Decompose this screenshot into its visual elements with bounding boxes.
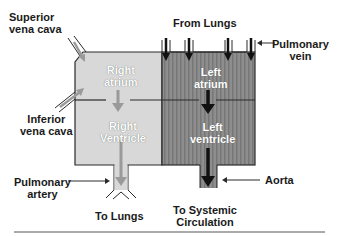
label-left-atrium: Left atrium — [194, 66, 228, 90]
label-to-systemic-circulation: To Systemic Circulation — [173, 204, 237, 228]
label-pulmonary-vein: Pulmonary vein — [272, 38, 329, 62]
label-from-lungs: From Lungs — [173, 17, 237, 29]
label-to-lungs: To Lungs — [95, 210, 144, 222]
label-right-ventricle: Right Ventricle — [100, 120, 146, 144]
label-right-atrium: Right atrium — [104, 64, 138, 88]
label-left-ventricle: Left ventricle — [190, 121, 235, 145]
label-inferior-vena-cava: Inferior vena cava — [20, 113, 73, 137]
pulmonary-vein-tubes — [162, 40, 255, 52]
label-pulmonary-artery: Pulmonary artery — [14, 176, 71, 200]
label-aorta: Aorta — [265, 174, 294, 186]
label-superior-vena-cava: Superior vena cava — [9, 11, 62, 35]
